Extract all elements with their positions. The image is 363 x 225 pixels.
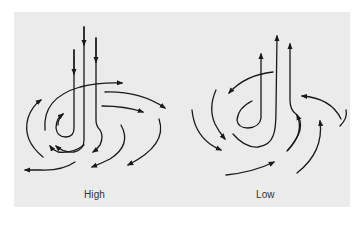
high-vertical-line-3 (93, 38, 102, 152)
high-arc-lower-middle (92, 125, 125, 167)
high-arc-right-outer (105, 92, 165, 108)
low-label: Low (256, 189, 275, 200)
low-vertical-line-2 (233, 36, 277, 147)
low-arc-left-outer (192, 110, 221, 150)
high-arc-bottom-left (25, 162, 75, 170)
pressure-systems-diagram (0, 0, 363, 225)
high-pressure-diagram (25, 27, 165, 170)
high-arc-left-outer (27, 100, 43, 157)
low-rising-arrows (233, 36, 301, 150)
low-arc-right-inner (287, 115, 299, 151)
high-descending-arrows (56, 27, 102, 152)
low-arc-top-left (229, 72, 273, 93)
low-arc-upper-right (302, 96, 341, 119)
low-pressure-diagram (192, 36, 346, 175)
high-arc-lower-right (128, 119, 161, 165)
low-arc-left-inner (212, 90, 225, 139)
high-label: High (84, 189, 105, 200)
low-vertical-line-1 (237, 54, 261, 128)
low-arc-bottom (226, 162, 274, 175)
high-vertical-line-2 (56, 27, 84, 152)
high-arc-right-inner (102, 106, 143, 112)
